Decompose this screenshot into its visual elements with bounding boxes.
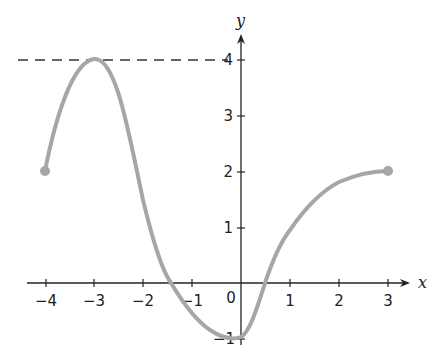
x-tick-label: 1 [285,292,295,310]
left-endpoint [40,166,50,176]
y-axis-label: y [235,11,246,30]
y-tick-label: 2 [223,163,233,181]
right-endpoint [383,166,393,176]
origin-label: 0 [226,289,236,307]
y-tick-label: 3 [223,107,233,125]
x-tick-label: −3 [83,292,105,310]
x-tick-label: −4 [35,292,57,310]
y-tick-label: 4 [223,51,233,69]
x-axis-label: x [418,273,427,292]
x-tick-label: −2 [132,292,154,310]
graph: −4 −3 −2 −1 0 1 2 3 4 3 2 1 −1 x y [0,0,439,362]
x-tick-label: 3 [383,292,393,310]
x-tick-label: 2 [334,292,344,310]
y-tick-label: 1 [223,219,233,237]
